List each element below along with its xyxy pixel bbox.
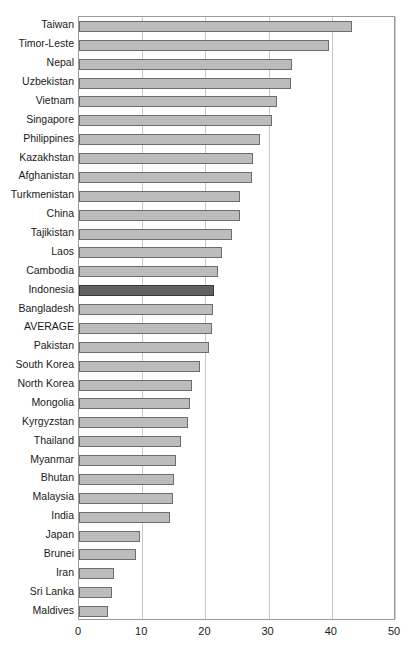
category-label-singapore: Singapore (0, 114, 74, 125)
value-axis-labels: 01020304050 (0, 624, 415, 640)
category-axis-labels: TaiwanTimor-LesteNepalUzbekistanVietnamS… (0, 16, 74, 620)
bar-mongolia (79, 398, 190, 409)
bar-kazakhstan (79, 153, 253, 164)
x-tick-10: 10 (135, 624, 147, 638)
category-label-china: China (0, 208, 74, 219)
x-tick-50: 50 (388, 624, 400, 638)
bar-north-korea (79, 380, 192, 391)
category-label-north-korea: North Korea (0, 378, 74, 389)
category-label-kyrgyzstan: Kyrgyzstan (0, 416, 74, 427)
bar-nepal (79, 59, 292, 70)
bar-timor-leste (79, 40, 329, 51)
category-label-nepal: Nepal (0, 57, 74, 68)
bar-pakistan (79, 342, 209, 353)
category-label-laos: Laos (0, 246, 74, 257)
category-label-philippines: Philippines (0, 133, 74, 144)
x-tick-40: 40 (325, 624, 337, 638)
bars-container (79, 17, 394, 619)
category-label-tajikistan: Tajikistan (0, 227, 74, 238)
bar-kyrgyzstan (79, 417, 188, 428)
category-label-kazakhstan: Kazakhstan (0, 152, 74, 163)
bar-bhutan (79, 474, 174, 485)
category-label-japan: Japan (0, 529, 74, 540)
gridline (395, 17, 396, 619)
category-label-turkmenistan: Turkmenistan (0, 189, 74, 200)
bar-sri-lanka (79, 587, 112, 598)
category-label-vietnam: Vietnam (0, 95, 74, 106)
category-label-timor-leste: Timor-Leste (0, 38, 74, 49)
category-label-bangladesh: Bangladesh (0, 303, 74, 314)
bar-tajikistan (79, 229, 232, 240)
category-label-india: India (0, 510, 74, 521)
bar-thailand (79, 436, 181, 447)
x-tick-20: 20 (198, 624, 210, 638)
bar-laos (79, 247, 222, 258)
bar-turkmenistan (79, 191, 240, 202)
category-label-malaysia: Malaysia (0, 491, 74, 502)
bar-uzbekistan (79, 78, 291, 89)
bar-singapore (79, 115, 272, 126)
x-tick-30: 30 (261, 624, 273, 638)
bar-philippines (79, 134, 260, 145)
category-label-taiwan: Taiwan (0, 19, 74, 30)
category-label-uzbekistan: Uzbekistan (0, 76, 74, 87)
category-label-mongolia: Mongolia (0, 397, 74, 408)
bar-india (79, 512, 170, 523)
category-label-bhutan: Bhutan (0, 472, 74, 483)
category-label-sri-lanka: Sri Lanka (0, 586, 74, 597)
category-label-cambodia: Cambodia (0, 265, 74, 276)
bar-average (79, 323, 212, 334)
bar-iran (79, 568, 114, 579)
category-label-pakistan: Pakistan (0, 340, 74, 351)
x-tick-0: 0 (75, 624, 81, 638)
bar-bangladesh (79, 304, 213, 315)
bar-afghanistan (79, 172, 252, 183)
bar-china (79, 210, 240, 221)
bar-japan (79, 531, 140, 542)
bar-maldives (79, 606, 108, 617)
bar-south-korea (79, 361, 200, 372)
category-label-south-korea: South Korea (0, 359, 74, 370)
category-label-brunei: Brunei (0, 548, 74, 559)
category-label-afghanistan: Afghanistan (0, 170, 74, 181)
plot-area (78, 16, 395, 620)
category-label-thailand: Thailand (0, 435, 74, 446)
bar-chart: TaiwanTimor-LesteNepalUzbekistanVietnamS… (0, 0, 415, 648)
chart-title (0, 0, 415, 3)
bar-malaysia (79, 493, 173, 504)
bar-myanmar (79, 455, 176, 466)
bar-cambodia (79, 266, 218, 277)
bar-brunei (79, 549, 136, 560)
category-label-myanmar: Myanmar (0, 454, 74, 465)
bar-vietnam (79, 96, 277, 107)
bar-taiwan (79, 21, 352, 32)
category-label-average: AVERAGE (0, 321, 74, 332)
category-label-maldives: Maldives (0, 605, 74, 616)
bar-indonesia (79, 285, 214, 296)
category-label-iran: Iran (0, 567, 74, 578)
category-label-indonesia: Indonesia (0, 284, 74, 295)
